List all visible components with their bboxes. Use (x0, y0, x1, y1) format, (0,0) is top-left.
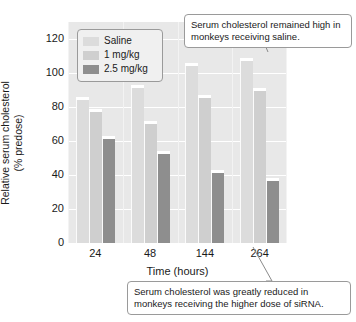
callout-saline: Serum cholesterol remained high in monke… (184, 14, 352, 48)
callout-leader-lines (0, 0, 356, 322)
callout-sirna: Serum cholesterol was greatly reduced in… (127, 281, 351, 315)
chart-screenshot: 020406080100120 Relative serum cholester… (0, 0, 356, 322)
